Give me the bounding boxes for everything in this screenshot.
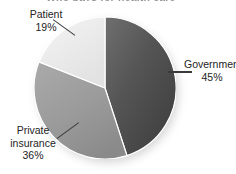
pie-chart-figure: Who pays for health care [0, 0, 236, 174]
label-patient-name: Patient [30, 8, 63, 20]
chart-title-cropped: Who pays for health care [46, 0, 186, 1]
label-private-insurance-value: 36% [2, 149, 64, 162]
label-patient: Patient 19% [20, 8, 72, 33]
label-government: Government 45% [184, 58, 236, 83]
label-government-name: Government [184, 58, 236, 70]
label-private-insurance: Private insurance 36% [2, 124, 64, 162]
label-patient-value: 19% [20, 21, 72, 34]
label-private-insurance-name-line2: insurance [2, 137, 64, 150]
label-government-value: 45% [184, 71, 236, 84]
label-private-insurance-name-line1: Private [17, 124, 50, 136]
